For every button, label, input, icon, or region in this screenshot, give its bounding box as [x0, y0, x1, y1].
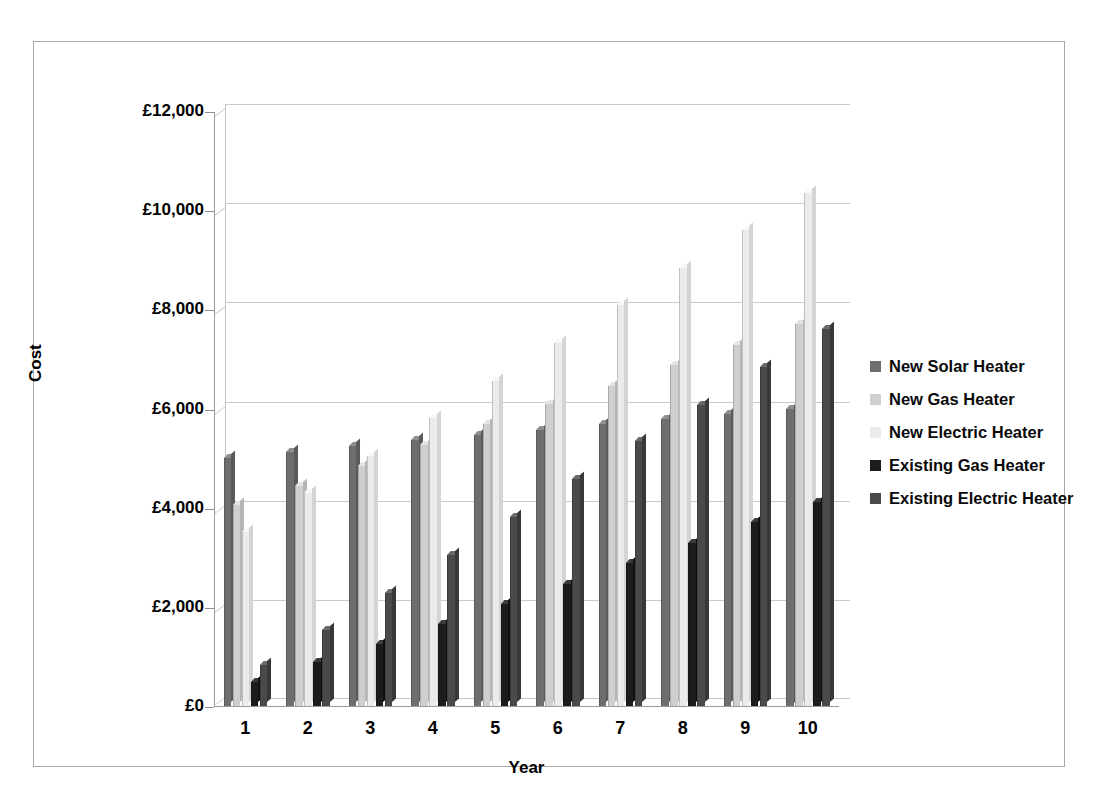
bar-face	[322, 630, 330, 706]
gridline	[225, 402, 850, 403]
bar-face	[251, 682, 259, 706]
chart-figure: Cost £0£2,000£4,000£6,000£8,000£10,000£1…	[0, 0, 1096, 803]
bar	[367, 456, 375, 706]
bar-face	[429, 418, 437, 706]
bar-side-face	[330, 622, 334, 702]
bar-face	[822, 329, 830, 706]
y-axis-tick-label: £2,000	[152, 597, 204, 617]
y-axis-tick-label: £8,000	[152, 299, 204, 319]
bar	[349, 446, 357, 706]
bar	[358, 466, 366, 706]
x-axis-tick-label: 9	[714, 718, 777, 739]
legend-label: New Solar Heater	[889, 357, 1025, 376]
legend-item: Existing Electric Heater	[870, 482, 1096, 515]
bar	[545, 404, 553, 706]
bar-face	[510, 517, 518, 706]
bar-face	[536, 430, 544, 706]
bar-face	[742, 230, 750, 706]
bar	[724, 414, 732, 706]
bar-face	[438, 624, 446, 706]
x-axis-tick-label: 5	[464, 718, 527, 739]
bar-face	[670, 365, 678, 706]
bar-face	[599, 424, 607, 706]
bar	[438, 624, 446, 706]
bar	[224, 458, 232, 706]
bar	[536, 430, 544, 706]
bar-face	[813, 502, 821, 706]
bar-face	[751, 522, 759, 706]
legend-label: New Electric Heater	[889, 423, 1043, 442]
bar-face	[617, 305, 625, 706]
gridline	[225, 104, 850, 105]
y-axis-tick	[205, 112, 214, 113]
bar-face	[385, 593, 393, 706]
bar-side-face	[517, 509, 521, 702]
bar-side-face	[267, 657, 271, 702]
bar-face	[697, 405, 705, 706]
bar	[742, 230, 750, 706]
bar-face	[367, 456, 375, 706]
bar-face	[545, 404, 553, 706]
y-axis-tick-label: £12,000	[143, 101, 204, 121]
bar-face	[688, 543, 696, 706]
y-axis-line	[214, 112, 215, 707]
bar-face	[760, 367, 768, 706]
bar-face	[635, 441, 643, 706]
bar	[670, 365, 678, 706]
y-axis-tick	[205, 310, 214, 311]
bar-side-face	[580, 472, 584, 702]
bar	[626, 563, 634, 706]
gridline-riser	[214, 402, 226, 411]
bar-face	[804, 193, 812, 706]
x-axis-tick-label: 8	[652, 718, 715, 739]
bar	[751, 522, 759, 706]
bar-face	[349, 446, 357, 706]
bar-face	[376, 644, 384, 706]
bar	[260, 665, 268, 706]
bar	[661, 419, 669, 706]
y-axis-tick-label: £0	[185, 696, 204, 716]
gridline	[225, 203, 850, 204]
x-axis-line	[214, 706, 839, 707]
legend-item: Existing Gas Heater	[870, 449, 1096, 482]
bar	[608, 386, 616, 706]
bar	[251, 682, 259, 706]
legend-swatch-icon	[870, 493, 881, 504]
bar-face	[233, 505, 241, 706]
bar	[688, 543, 696, 706]
y-axis-tick	[205, 608, 214, 609]
bar-face	[733, 345, 741, 706]
y-axis-tick	[205, 707, 214, 708]
bar	[563, 584, 571, 706]
bar	[420, 445, 428, 706]
bar-face	[304, 493, 312, 706]
x-axis-tick-label: 3	[339, 718, 402, 739]
bar-face	[626, 563, 634, 706]
bar	[447, 555, 455, 706]
bar-side-face	[767, 359, 771, 702]
bar	[822, 329, 830, 706]
bar	[572, 479, 580, 706]
x-axis-tick-label: 6	[527, 718, 590, 739]
bar	[295, 486, 303, 706]
bar	[679, 268, 687, 706]
bar	[242, 532, 250, 706]
bar-face	[679, 268, 687, 706]
bar-face	[492, 381, 500, 706]
plot-area	[214, 112, 839, 707]
bar-face	[313, 662, 321, 706]
bar-side-face	[705, 397, 709, 702]
bar-side-face	[830, 321, 834, 702]
bar-face	[260, 665, 268, 706]
gridline-riser	[214, 203, 226, 212]
x-axis-tick-label: 4	[402, 718, 465, 739]
bar	[635, 441, 643, 706]
y-axis-tick-label: £10,000	[143, 200, 204, 220]
bar-side-face	[249, 524, 253, 702]
gridline-riser	[214, 104, 226, 113]
y-axis-title: Cost	[26, 344, 46, 382]
bar	[483, 424, 491, 706]
legend-label: Existing Gas Heater	[889, 456, 1045, 475]
bar-face	[795, 324, 803, 706]
legend-swatch-icon	[870, 361, 881, 372]
